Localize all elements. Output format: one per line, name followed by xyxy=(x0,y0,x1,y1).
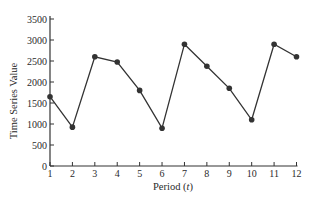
x-tick-label: 3 xyxy=(92,168,97,179)
x-tick-label: 7 xyxy=(182,168,187,179)
data-point-marker xyxy=(114,59,120,65)
data-point-marker xyxy=(182,41,188,47)
data-point-marker xyxy=(271,41,277,47)
x-tick-label: 12 xyxy=(292,168,302,179)
y-tick-label: 2500 xyxy=(27,56,47,67)
data-point-marker xyxy=(70,124,76,130)
y-tick-label: 2000 xyxy=(27,77,47,88)
series-polyline xyxy=(50,44,297,128)
y-tick-label: 3500 xyxy=(27,14,47,25)
x-tick-label: 10 xyxy=(247,168,257,179)
x-axis-title-close: ) xyxy=(189,181,193,193)
x-tick-label: 8 xyxy=(204,168,209,179)
y-tick-label: 1500 xyxy=(27,98,47,109)
y-axis: 0500100015002000250030003500 xyxy=(27,14,54,172)
data-point-marker xyxy=(137,88,143,94)
y-axis-title: Time Series Value xyxy=(8,62,19,139)
data-point-marker xyxy=(159,125,165,131)
x-tick-label: 9 xyxy=(227,168,232,179)
series-line xyxy=(47,41,299,131)
data-point-marker xyxy=(294,54,300,60)
data-point-marker xyxy=(92,54,98,60)
x-axis-title-main: Period ( xyxy=(153,181,187,193)
x-tick-label: 4 xyxy=(115,168,120,179)
y-tick-label: 0 xyxy=(42,161,47,172)
data-point-marker xyxy=(204,63,210,69)
x-tick-label: 6 xyxy=(160,168,165,179)
x-axis-title: Period (t) xyxy=(153,181,193,193)
x-tick-label: 1 xyxy=(48,168,53,179)
x-tick-label: 11 xyxy=(269,168,279,179)
y-tick-label: 1000 xyxy=(27,119,47,130)
y-tick-label: 500 xyxy=(32,140,47,151)
data-point-marker xyxy=(226,86,232,92)
data-point-marker xyxy=(47,94,53,100)
x-tick-label: 2 xyxy=(70,168,75,179)
x-axis: 123456789101112 xyxy=(48,162,302,179)
data-point-marker xyxy=(249,117,255,123)
x-tick-label: 5 xyxy=(137,168,142,179)
line-chart: 0500100015002000250030003500 12345678910… xyxy=(0,0,312,198)
y-tick-label: 3000 xyxy=(27,35,47,46)
